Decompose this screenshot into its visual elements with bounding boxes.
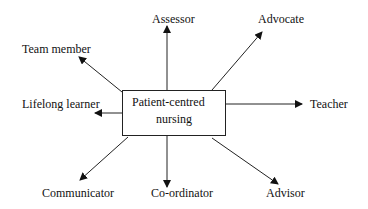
role-advisor: Advisor [266,186,305,200]
arrow-team-member [79,57,122,92]
center-node-subtitle: nursing [156,112,192,127]
role-diagram: Patient-centred nursing Assessor Advocat… [0,0,368,209]
role-communicator: Communicator [42,186,114,200]
arrow-communicator [80,137,128,180]
role-lifelong-learner: Lifelong learner [22,97,100,111]
arrow-advisor [212,138,278,184]
role-co-ordinator: Co-ordinator [151,186,213,200]
role-teacher: Teacher [310,97,348,111]
role-assessor: Assessor [152,12,195,26]
role-advocate: Advocate [258,12,304,26]
center-node: Patient-centred nursing [122,90,226,136]
center-node-title: Patient-centred [132,95,205,110]
arrow-advocate [212,32,262,90]
role-team-member: Team member [22,42,91,56]
